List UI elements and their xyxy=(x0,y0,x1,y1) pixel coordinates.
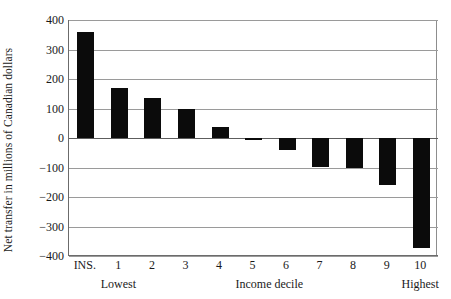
y-axis-title-text: Net transfer in millions of Canadian dol… xyxy=(2,47,14,251)
bar-8 xyxy=(346,138,363,168)
bar-2 xyxy=(144,98,161,138)
x-tick-label-5: 5 xyxy=(250,258,256,272)
y-tick-label-300: 300 xyxy=(20,44,64,56)
x-tick-label-9: 9 xyxy=(384,258,390,272)
x-axis-ticks: INS.12345678910 xyxy=(0,258,451,274)
y-tick-label-100: 100 xyxy=(20,103,64,115)
y-tick-label-200: 200 xyxy=(20,73,64,85)
y-tick-label-0: 0 xyxy=(20,132,64,144)
x-tick-label-6: 6 xyxy=(283,258,289,272)
bar-5 xyxy=(245,138,262,140)
x-tick-label-ins: INS. xyxy=(74,258,96,272)
bar-10 xyxy=(413,138,430,248)
y-axis-ticks: 4003002001000−100−200−300−400 xyxy=(16,0,64,299)
bar-6 xyxy=(279,138,296,150)
x-tick-label-2: 2 xyxy=(149,258,155,272)
y-tick-label--200: −200 xyxy=(20,191,64,203)
y-axis-title: Net transfer in millions of Canadian dol… xyxy=(0,0,16,299)
x-tick-label-10: 10 xyxy=(414,258,426,272)
gridline-400 xyxy=(69,20,438,21)
plot-area xyxy=(68,20,437,256)
bar-ins xyxy=(77,32,94,138)
cropped-title-remnant xyxy=(60,0,320,9)
x-tick-label-7: 7 xyxy=(317,258,323,272)
chart-figure: Net transfer in millions of Canadian dol… xyxy=(0,0,451,299)
gridline-200 xyxy=(69,79,438,80)
y-tick-label-400: 400 xyxy=(20,14,64,26)
x-axis-sublabels: LowestIncome decileHighest xyxy=(0,277,451,295)
bar-4 xyxy=(212,127,229,138)
x-sublabel-lowest: Lowest xyxy=(101,277,136,291)
bar-7 xyxy=(312,138,329,167)
x-sublabel-income-decile: Income decile xyxy=(235,277,303,291)
bar-3 xyxy=(178,109,195,139)
bar-9 xyxy=(379,138,396,185)
x-tick-label-8: 8 xyxy=(350,258,356,272)
x-tick-label-3: 3 xyxy=(182,258,188,272)
y-tick-label--100: −100 xyxy=(20,162,64,174)
x-tick-label-1: 1 xyxy=(115,258,121,272)
gridline--400 xyxy=(69,256,438,257)
gridline--200 xyxy=(69,197,438,198)
y-tick-label--300: −300 xyxy=(20,221,64,233)
bar-1 xyxy=(111,88,128,138)
gridline-300 xyxy=(69,50,438,51)
x-sublabel-highest: Highest xyxy=(402,277,439,291)
x-tick-label-4: 4 xyxy=(216,258,222,272)
gridline--300 xyxy=(69,227,438,228)
